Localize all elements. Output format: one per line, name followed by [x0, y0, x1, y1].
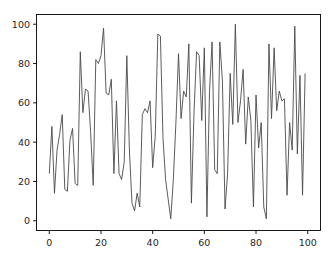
figure-background [0, 0, 335, 264]
y-tick-label: 0 [24, 215, 30, 226]
x-tick-label: 60 [198, 237, 210, 248]
y-tick-label: 60 [18, 97, 30, 108]
figure-canvas: 020406080100 020406080100 [0, 0, 335, 264]
x-tick-label: 80 [250, 237, 262, 248]
x-tick-label: 0 [46, 237, 52, 248]
x-tick-label: 20 [95, 237, 107, 248]
y-tick-label: 80 [18, 58, 30, 69]
y-tick-label: 40 [18, 137, 30, 148]
x-tick-label: 100 [299, 237, 317, 248]
y-tick-label: 100 [12, 19, 30, 30]
y-tick-label: 20 [18, 176, 30, 187]
x-tick-label: 40 [147, 237, 159, 248]
line-chart: 020406080100 020406080100 [0, 0, 335, 264]
